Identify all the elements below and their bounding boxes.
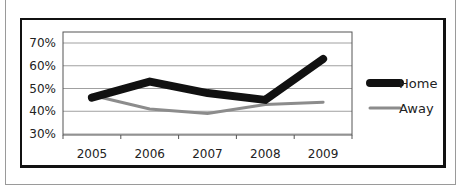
y-tick-label: 50% — [29, 82, 56, 96]
x-tick-label: 2006 — [134, 147, 165, 161]
y-tick-label: 70% — [29, 36, 56, 50]
y-tick-label: 40% — [29, 104, 56, 118]
x-axis-labels: 20052006200720082009 — [63, 135, 352, 161]
y-axis-labels: 30%40%50%60%70% — [29, 36, 56, 141]
series-lines — [92, 59, 323, 114]
y-tick-label: 60% — [29, 59, 56, 73]
x-tick-label: 2009 — [308, 147, 339, 161]
line-chart: 30%40%50%60%70% 20052006200720082009 Hom… — [0, 0, 462, 194]
legend-label-home: Home — [399, 76, 437, 91]
y-tick-label: 30% — [29, 127, 56, 141]
legend-label-away: Away — [399, 101, 434, 116]
legend: HomeAway — [370, 76, 437, 116]
x-tick-label: 2007 — [192, 147, 223, 161]
x-tick-label: 2005 — [77, 147, 108, 161]
series-line-home — [92, 59, 323, 100]
plot-area — [63, 32, 352, 135]
x-tick-label: 2008 — [250, 147, 281, 161]
gridlines — [63, 43, 352, 134]
